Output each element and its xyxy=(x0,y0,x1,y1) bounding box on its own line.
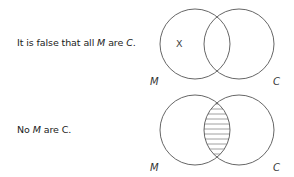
circle-c-1 xyxy=(204,9,274,79)
venn-diagram-1: X M C xyxy=(150,9,280,87)
label-m-2: M xyxy=(150,162,159,173)
circle-c-2 xyxy=(204,95,274,165)
venn-diagrams: X M C M C xyxy=(0,0,294,177)
label-c-1: C xyxy=(273,76,280,87)
circle-m-1 xyxy=(160,9,230,79)
venn-diagram-2: M C xyxy=(150,95,280,173)
circle-m-2 xyxy=(160,95,230,165)
x-marker: X xyxy=(176,38,183,49)
label-c-2: C xyxy=(273,162,280,173)
label-m-1: M xyxy=(150,76,159,87)
